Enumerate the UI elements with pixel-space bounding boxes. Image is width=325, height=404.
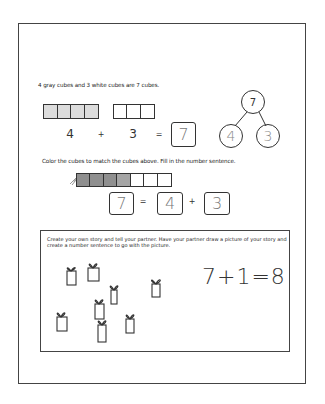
- present-icon: [110, 286, 118, 304]
- present-icon: [88, 264, 99, 281]
- presents-drawing: [0, 0, 325, 404]
- present-icon: [67, 268, 76, 285]
- present-icon: [126, 315, 134, 333]
- present-icon: [57, 313, 67, 331]
- present-icon: [98, 321, 106, 342]
- present-icon: [151, 280, 160, 297]
- handwritten-equation: 7+1=8: [202, 264, 286, 289]
- present-icon: [95, 300, 104, 319]
